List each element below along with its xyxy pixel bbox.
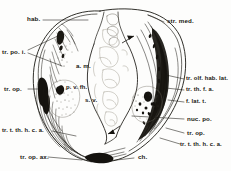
ventricle-loop-b <box>107 26 118 36</box>
leader-trpoi-top <box>28 35 60 50</box>
label-tractus-olfacto-habenularis-lateralis: tr. olf. hab. lat. <box>186 75 228 82</box>
label-habenula: hab. <box>27 15 40 22</box>
label-tractus-preopticus-inferior: tr. po. i. <box>2 48 26 55</box>
label-tractus-opticus-right: tr. op. <box>187 129 205 136</box>
ventricle-loop-a <box>107 14 119 25</box>
label-saccus-vasculosus: s. v. <box>85 96 97 103</box>
label-tractus-opticus-axialis: tr. op. ax. <box>20 153 49 160</box>
arrow-lower-left <box>108 126 120 134</box>
ventricle-wall-left <box>87 44 106 144</box>
interior-reticulum <box>94 29 129 126</box>
label-tractus-thalamo-frontalis-anterior: tr. th. f. a. <box>186 86 214 93</box>
label-tractus-opticus-left: tr. op. <box>4 85 22 92</box>
label-area-medialis: a. m. <box>76 62 91 69</box>
label-stria-medullaris: str. med. <box>167 17 194 24</box>
dorsal-cleft <box>94 12 104 44</box>
label-nucleus-preopticus: nuc. po. <box>187 115 212 122</box>
leader-strmed <box>148 15 164 22</box>
label-paraventricularis: p. v. fh. <box>66 84 87 91</box>
dorsal-cleft-2 <box>118 12 127 43</box>
leader-trop-right <box>166 128 184 133</box>
label-tr-t-th-h-c-a-right: tr. t. th. h. c. a. <box>180 141 222 148</box>
inner-contour-left <box>38 14 97 143</box>
figure-root: hab. str. med. tr. po. i. tr. op. tr. ol… <box>0 0 231 171</box>
leader-flatt <box>168 100 184 102</box>
label-chiasma: ch. <box>138 153 147 160</box>
label-fasciculus-lateralis-telencephali: f. lat. t. <box>186 98 206 105</box>
label-tr-t-th-h-c-a-left: tr. t. th. h. c. a. <box>2 127 44 134</box>
central-ventricle-group <box>87 43 137 144</box>
left-dark-cell-cluster <box>56 85 64 94</box>
ventricle-wall-right <box>116 43 138 137</box>
leader-trtthhca-right <box>160 138 180 144</box>
